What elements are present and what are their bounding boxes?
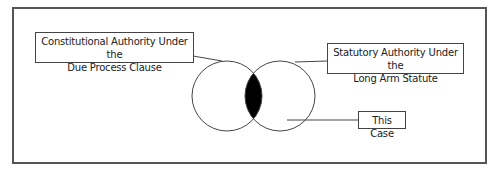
statutory-label-line1: Statutory Authority Under the [328,46,463,72]
statutory-authority-label: Statutory Authority Under the Long Arm S… [327,43,464,74]
venn-diagram [0,0,500,174]
constitutional-leader-line [193,56,222,61]
this-case-label: This Case [358,111,406,129]
this-case-text: This Case [359,114,405,140]
constitutional-authority-label: Constitutional Authority Under the Due P… [35,32,194,63]
constitutional-label-line2: Due Process Clause [36,61,193,74]
statutory-label-line2: Long Arm Statute [328,72,463,85]
statutory-leader-line [295,61,327,62]
constitutional-label-line1: Constitutional Authority Under the [36,35,193,61]
